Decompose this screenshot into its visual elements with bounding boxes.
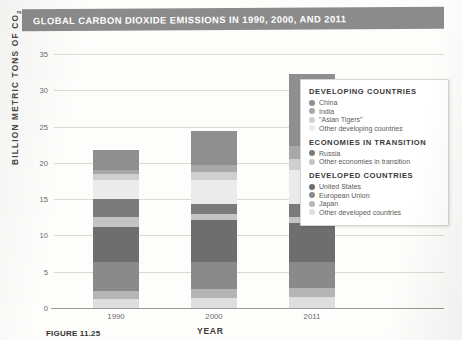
legend-item-label: India: [319, 108, 334, 115]
bar-segment[interactable]: [93, 291, 139, 299]
bar-segment[interactable]: [93, 180, 139, 200]
y-axis-label: BILLION METRIC TONS OF CO2: [10, 9, 22, 165]
bar-segment[interactable]: [191, 289, 237, 298]
y-axis-tick-label: 30: [40, 86, 48, 95]
legend-item[interactable]: Japan: [309, 200, 440, 207]
legend-item[interactable]: European Union: [309, 192, 440, 199]
gridline: [54, 54, 444, 55]
legend-group: ECONOMIES IN TRANSITIONRussiaOther econo…: [309, 138, 440, 166]
bar-2000[interactable]: [191, 131, 237, 308]
legend-item[interactable]: India: [309, 108, 440, 115]
legend-item-label: United States: [319, 183, 361, 190]
legend-swatch-icon: [309, 192, 315, 198]
legend-group: DEVELOPED COUNTRIESUnited StatesEuropean…: [309, 171, 440, 216]
legend-item-label: Other developed countries: [319, 209, 401, 216]
bar-segment[interactable]: [289, 288, 335, 297]
legend-swatch-icon: [309, 209, 315, 215]
bar-segment[interactable]: [191, 204, 237, 215]
legend-group-heading: ECONOMIES IN TRANSITION: [309, 138, 440, 147]
legend-swatch-icon: [309, 100, 315, 106]
bar-segment[interactable]: [289, 297, 335, 308]
bar-segment[interactable]: [191, 214, 237, 220]
bar-segment[interactable]: [191, 131, 237, 165]
bar-segment[interactable]: [93, 217, 139, 227]
bar-segment[interactable]: [289, 262, 335, 288]
legend-swatch-icon: [309, 150, 315, 156]
legend-item-label: Other economies in transition: [319, 158, 410, 165]
y-axis-tick-label: 0: [44, 304, 48, 313]
y-axis-tick-label: 20: [40, 158, 48, 167]
legend-item[interactable]: Other developing countries: [309, 125, 440, 132]
legend-swatch-icon: [309, 108, 315, 114]
legend-group: DEVELOPING COUNTRIESChinaIndia"Asian Tig…: [309, 87, 440, 132]
legend-item[interactable]: Russia: [309, 150, 440, 157]
chart-title-bar: GLOBAL CARBON DIOXIDE EMISSIONS IN 1990,…: [22, 7, 444, 32]
bar-segment[interactable]: [191, 298, 237, 308]
legend-swatch-icon: [309, 117, 315, 123]
legend-item-label: European Union: [319, 192, 370, 199]
legend-item[interactable]: China: [309, 99, 440, 106]
x-axis-tick-label: 2000: [205, 312, 222, 321]
y-axis-tick-label: 10: [40, 231, 48, 240]
legend-item[interactable]: United States: [309, 183, 440, 190]
y-axis-tick-label: 35: [40, 50, 48, 59]
chart-legend: DEVELOPING COUNTRIESChinaIndia"Asian Tig…: [300, 79, 449, 226]
bar-segment[interactable]: [93, 262, 139, 291]
bar-segment[interactable]: [93, 227, 139, 262]
bar-segment[interactable]: [93, 174, 139, 179]
y-axis-tick-label: 15: [40, 195, 48, 204]
x-axis-tick-label: 2011: [304, 312, 321, 321]
legend-swatch-icon: [309, 201, 315, 207]
legend-group-heading: DEVELOPING COUNTRIES: [309, 87, 440, 96]
legend-item[interactable]: Other economies in transition: [309, 158, 440, 165]
legend-group-heading: DEVELOPED COUNTRIES: [309, 171, 440, 180]
legend-item[interactable]: "Asian Tigers": [309, 116, 440, 123]
bar-segment[interactable]: [191, 180, 237, 203]
legend-swatch-icon: [309, 159, 315, 165]
bar-segment[interactable]: [191, 165, 237, 172]
gridline: [54, 308, 444, 309]
legend-item-label: Russia: [319, 150, 340, 157]
bar-segment[interactable]: [93, 299, 139, 308]
bar-segment[interactable]: [289, 223, 335, 261]
figure-caption: FIGURE 11.25: [46, 329, 346, 338]
page-title: GLOBAL CARBON DIOXIDE EMISSIONS IN 1990,…: [22, 13, 346, 26]
bar-segment[interactable]: [93, 150, 139, 170]
bar-1990[interactable]: [93, 150, 139, 308]
bar-segment[interactable]: [93, 170, 139, 174]
legend-item-label: "Asian Tigers": [319, 116, 363, 123]
figure-number: FIGURE 11.25: [46, 329, 100, 338]
legend-item-label: China: [319, 99, 337, 106]
legend-item-label: Other developing countries: [319, 125, 403, 132]
legend-swatch-icon: [309, 125, 315, 131]
bar-segment[interactable]: [93, 199, 139, 216]
figure-page: GLOBAL CARBON DIOXIDE EMISSIONS IN 1990,…: [0, 0, 462, 340]
legend-item[interactable]: Other developed countries: [309, 209, 440, 216]
bar-segment[interactable]: [191, 172, 237, 181]
x-axis-tick-label: 1990: [107, 312, 124, 321]
bar-segment[interactable]: [191, 262, 237, 290]
y-axis-tick-label: 5: [44, 267, 48, 276]
legend-swatch-icon: [309, 184, 315, 190]
y-axis-tick-label: 25: [40, 122, 48, 131]
legend-item-label: Japan: [319, 200, 338, 207]
bar-segment[interactable]: [191, 220, 237, 261]
